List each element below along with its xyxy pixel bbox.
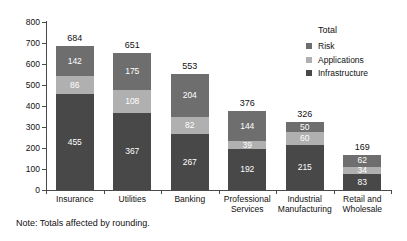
bar-group[interactable]: 20482267553 [171,22,209,190]
bar-stack: 175108367 [113,53,151,190]
bar-segment-applications[interactable]: 34 [343,167,381,174]
y-tick-label: 600 [12,60,40,69]
bar-segment-value: 50 [300,123,309,132]
legend-item-applications[interactable]: Applications [306,56,404,65]
x-axis-label-utilities: Utilities [104,194,162,204]
bar-group[interactable]: 14439192376 [228,22,266,190]
legend-item-label: Risk [318,42,335,51]
bar-segment-value: 204 [183,91,197,100]
x-axis-label-line: Professional [219,194,277,204]
bar-segment-infrastructure[interactable]: 83 [343,174,381,190]
x-axis-label-line: Insurance [46,194,104,204]
legend: Total RiskApplicationsInfrastructure [306,26,404,83]
bar-stack: 5060215 [286,122,324,190]
bar-stack: 20482267 [171,74,209,190]
legend-swatch-icon [306,43,312,49]
bar-segment-infrastructure[interactable]: 267 [171,134,209,190]
y-tick-label: 0 [12,186,40,195]
legend-item-risk[interactable]: Risk [306,42,404,51]
bar-segment-value: 455 [68,138,82,147]
x-axis-label-line: Banking [161,194,219,204]
bar-group[interactable]: 175108367651 [113,22,151,190]
bar-stack: 14286455 [56,46,94,190]
bar-segment-infrastructure[interactable]: 215 [286,145,324,190]
bar-total-label: 684 [56,34,94,43]
x-axis-label-line: Retail and [334,194,392,204]
bar-segment-value: 215 [298,163,312,172]
x-axis-label-professional-services: ProfessionalServices [219,194,277,214]
x-axis-label-line: Utilities [104,194,162,204]
x-axis-label-retail-and-wholesale: Retail andWholesale [334,194,392,214]
bar-segment-risk[interactable]: 144 [228,111,266,141]
bar-segment-value: 192 [240,165,254,174]
legend-item-label: Applications [318,56,364,65]
x-tick [391,190,392,194]
y-tick-label: 800 [12,18,40,27]
bar-segment-value: 175 [125,67,139,76]
y-tick-label: 700 [12,39,40,48]
x-axis-label-banking: Banking [161,194,219,204]
y-tick-label: 100 [12,165,40,174]
bar-total-label: 169 [343,143,381,152]
legend-item-label: Infrastructure [318,69,368,78]
bar-segment-value: 39 [243,141,252,150]
legend-swatch-icon [306,57,312,63]
y-tick-label: 200 [12,144,40,153]
x-axis-label-industrial-manufacturing: IndustrialManufacturing [276,194,334,214]
bar-segment-infrastructure[interactable]: 455 [56,94,94,190]
bar-segment-risk[interactable]: 50 [286,122,324,133]
bar-total-label: 651 [113,41,151,50]
legend-title: Total [318,26,404,35]
bar-segment-value: 142 [68,57,82,66]
bar-segment-value: 367 [125,147,139,156]
legend-items: RiskApplicationsInfrastructure [306,42,404,78]
bar-stack: 14439192 [228,111,266,190]
bar-segment-risk[interactable]: 204 [171,74,209,117]
x-axis-label-line: Industrial [276,194,334,204]
x-axis-label-line: Wholesale [334,204,392,214]
bar-segment-value: 83 [358,178,367,187]
stacked-bar-chart: 0100200300400500600700800 14286455684175… [0,0,407,241]
bar-total-label: 553 [171,62,209,71]
bar-segment-value: 108 [125,97,139,106]
legend-item-infrastructure[interactable]: Infrastructure [306,69,404,78]
bar-segment-value: 267 [183,158,197,167]
bar-group[interactable]: 14286455684 [56,22,94,190]
bar-segment-applications[interactable]: 39 [228,141,266,149]
bar-segment-risk[interactable]: 175 [113,53,151,90]
bar-segment-applications[interactable]: 60 [286,132,324,145]
bar-segment-applications[interactable]: 82 [171,117,209,134]
y-tick-label: 400 [12,102,40,111]
bar-segment-value: 144 [240,122,254,131]
bar-segment-value: 62 [358,156,367,165]
bar-segment-value: 82 [185,121,194,130]
bar-segment-applications[interactable]: 108 [113,90,151,113]
bar-segment-value: 60 [300,134,309,143]
legend-swatch-icon [306,70,312,76]
bar-segment-infrastructure[interactable]: 192 [228,149,266,189]
x-axis-label-insurance: Insurance [46,194,104,204]
x-axis-label-line: Manufacturing [276,204,334,214]
y-tick-label: 500 [12,81,40,90]
chart-note: Note: Totals affected by rounding. [16,219,150,228]
bar-segment-applications[interactable]: 86 [56,76,94,94]
bar-segment-risk[interactable]: 142 [56,46,94,76]
x-axis-label-line: Services [219,204,277,214]
bar-stack: 623483 [343,155,381,190]
y-tick-label: 300 [12,123,40,132]
bar-segment-value: 86 [70,81,79,90]
bar-total-label: 376 [228,99,266,108]
bar-total-label: 326 [286,110,324,119]
bar-segment-infrastructure[interactable]: 367 [113,113,151,190]
